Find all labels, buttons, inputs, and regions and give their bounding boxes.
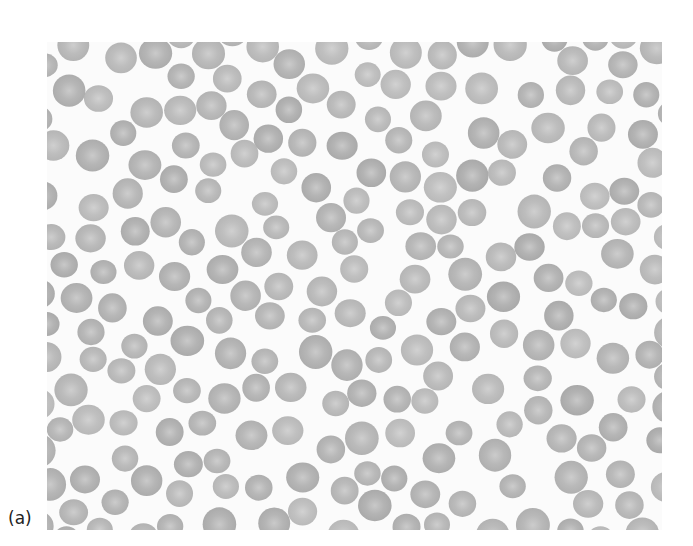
red-blood-cells: [47, 42, 662, 530]
figure-label: (a): [8, 508, 32, 528]
blood-smear-micrograph: [47, 42, 662, 530]
